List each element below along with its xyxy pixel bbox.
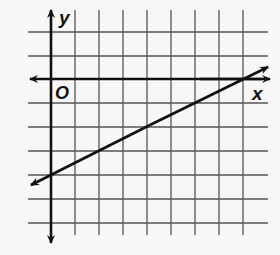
x-axis-label: x [251,83,264,104]
grid-lines [28,10,268,235]
coordinate-plane: y x O [0,0,280,255]
origin-label: O [55,83,69,103]
y-axis-label: y [58,7,71,28]
